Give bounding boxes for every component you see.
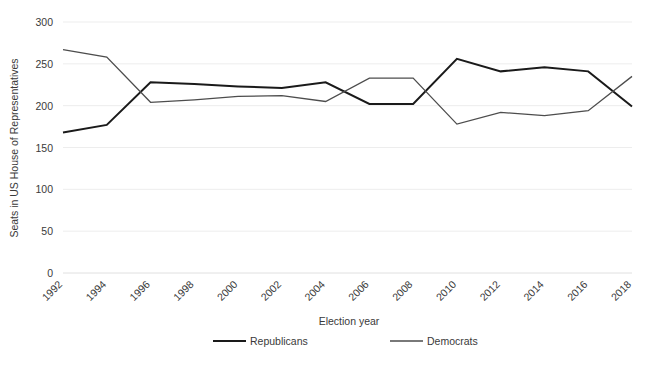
x-tick-label: 1992 — [39, 278, 64, 303]
y-axis-title: Seats in US House of Representatives — [8, 58, 20, 237]
x-tick-label: 2008 — [390, 278, 415, 303]
x-axis-title: Election year — [319, 315, 380, 327]
y-tick-label: 300 — [35, 16, 53, 28]
y-tick-label: 150 — [35, 142, 53, 154]
y-axis-tick-labels: 050100150200250300 — [35, 16, 53, 279]
x-tick-label: 1998 — [171, 278, 196, 303]
x-tick-label: 2004 — [302, 278, 327, 303]
y-tick-label: 50 — [41, 225, 53, 237]
line-chart: 050100150200250300 199219941996199820002… — [0, 0, 647, 367]
x-tick-label: 2010 — [433, 278, 458, 303]
legend-label-democrats: Democrats — [427, 335, 478, 347]
series-line-democrats — [63, 50, 632, 124]
legend-label-republicans: Republicans — [250, 335, 308, 347]
y-tick-label: 0 — [47, 267, 53, 279]
x-axis-tick-labels: 1992199419961998200020022004200620082010… — [39, 278, 633, 303]
series-line-republicans — [63, 59, 632, 133]
x-tick-label: 2018 — [608, 278, 633, 303]
x-tick-label: 2006 — [346, 278, 371, 303]
y-tick-label: 100 — [35, 183, 53, 195]
x-tick-label: 2016 — [565, 278, 590, 303]
x-tick-label: 2000 — [214, 278, 239, 303]
x-tick-label: 1994 — [83, 278, 108, 303]
x-tick-label: 2012 — [477, 278, 502, 303]
x-tick-label: 2002 — [258, 278, 283, 303]
chart-legend: RepublicansDemocrats — [213, 335, 478, 347]
x-tick-label: 2014 — [521, 278, 546, 303]
gridlines — [63, 22, 632, 273]
y-tick-label: 200 — [35, 100, 53, 112]
y-tick-label: 250 — [35, 58, 53, 70]
x-tick-label: 1996 — [127, 278, 152, 303]
series-lines — [63, 50, 632, 133]
chart-figure: 050100150200250300 199219941996199820002… — [0, 0, 647, 367]
